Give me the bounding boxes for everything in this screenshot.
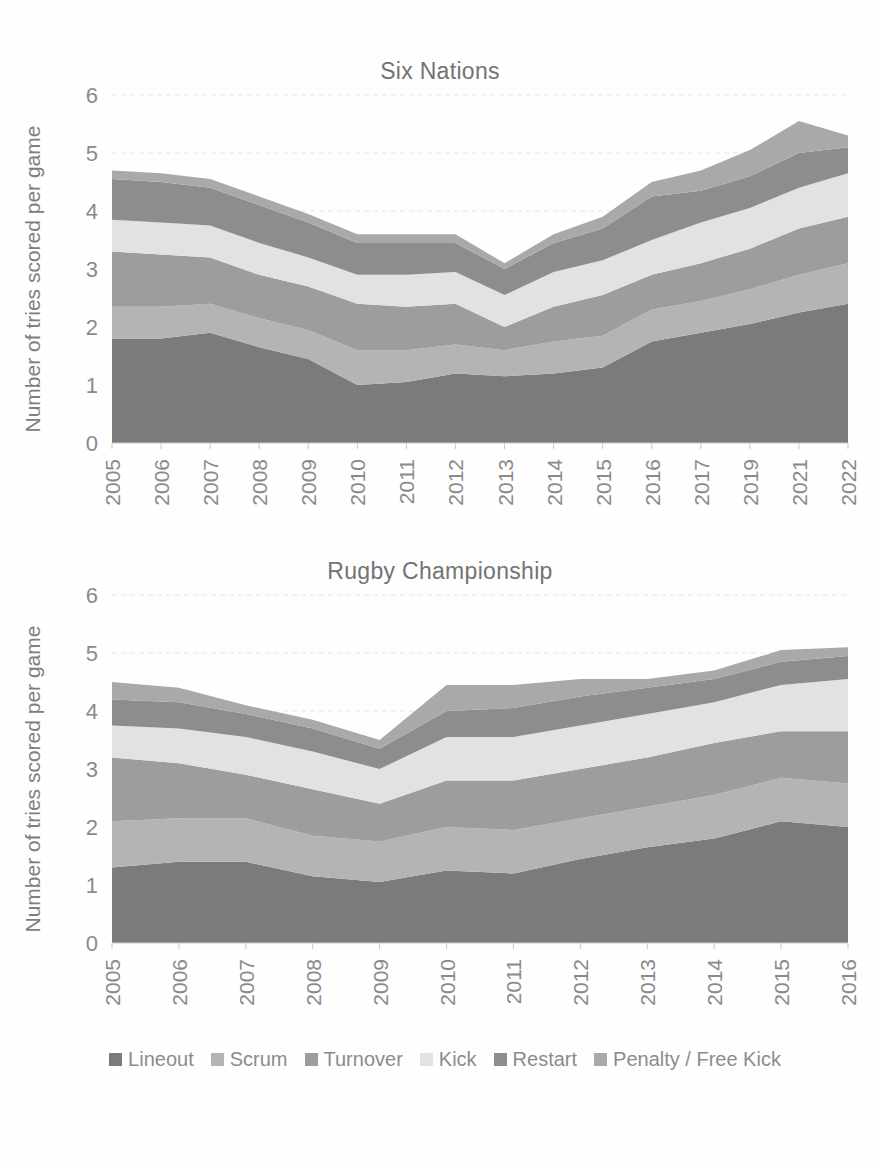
legend-swatch-icon xyxy=(494,1053,507,1066)
y-tick-label: 1 xyxy=(86,873,98,898)
legend-swatch-icon xyxy=(211,1053,224,1066)
y-tick-label: 3 xyxy=(86,757,98,782)
x-tick-label: 2009 xyxy=(297,459,320,506)
y-tick-label: 4 xyxy=(86,699,98,724)
y-tick-label: 6 xyxy=(86,85,98,108)
x-tick-label: 2011 xyxy=(395,459,418,504)
x-tick-label: 2015 xyxy=(770,959,793,1006)
y-tick-label: 0 xyxy=(86,931,98,956)
x-tick-label: 2013 xyxy=(494,459,517,506)
x-tick-label: 2012 xyxy=(444,459,467,506)
y-axis-label: Number of tries scored per game xyxy=(21,126,44,433)
legend-item[interactable]: Lineout xyxy=(109,1048,194,1071)
legend-item-label: Kick xyxy=(439,1048,477,1071)
x-tick-label: 2005 xyxy=(101,959,124,1006)
chart-page: Six Nations 0123456Number of tries score… xyxy=(0,0,880,1168)
legend-item[interactable]: Penalty / Free Kick xyxy=(594,1048,781,1071)
x-tick-label: 2008 xyxy=(248,459,271,506)
x-tick-label: 2021 xyxy=(788,459,811,506)
stacked-area-svg-2: 0123456Number of tries scored per game20… xyxy=(0,585,880,1040)
x-tick-label: 2006 xyxy=(150,459,173,506)
x-tick-label: 2008 xyxy=(302,959,325,1006)
x-tick-label: 2012 xyxy=(569,959,592,1006)
y-tick-label: 3 xyxy=(86,257,98,282)
x-tick-label: 2011 xyxy=(502,959,525,1004)
legend-item-label: Restart xyxy=(513,1048,577,1071)
x-tick-label: 2013 xyxy=(636,959,659,1006)
chart-title-six-nations: Six Nations xyxy=(0,0,880,85)
y-tick-label: 6 xyxy=(86,585,98,608)
chart-canvas-six-nations: 0123456Number of tries scored per game20… xyxy=(0,85,880,540)
x-tick-label: 2006 xyxy=(168,959,191,1006)
x-tick-label: 2005 xyxy=(101,459,124,506)
legend-item-label: Penalty / Free Kick xyxy=(613,1048,781,1071)
x-tick-label: 2007 xyxy=(199,459,222,506)
x-tick-label: 2009 xyxy=(369,959,392,1006)
legend-item-label: Turnover xyxy=(324,1048,403,1071)
y-tick-label: 5 xyxy=(86,641,98,666)
legend-swatch-icon xyxy=(594,1053,607,1066)
legend-item[interactable]: Turnover xyxy=(305,1048,403,1071)
y-tick-label: 2 xyxy=(86,815,98,840)
legend-swatch-icon xyxy=(109,1053,122,1066)
x-tick-label: 2016 xyxy=(837,959,860,1006)
chart-title-rugby-championship: Rugby Championship xyxy=(0,540,880,585)
legend-swatch-icon xyxy=(305,1053,318,1066)
chart-rugby-championship: Rugby Championship 0123456Number of trie… xyxy=(0,540,880,1040)
chart-legend: LineoutScrumTurnoverKickRestartPenalty /… xyxy=(0,1048,880,1071)
stacked-area-svg-1: 0123456Number of tries scored per game20… xyxy=(0,85,880,540)
x-tick-label: 2022 xyxy=(837,459,860,506)
x-tick-label: 2017 xyxy=(690,459,713,506)
x-tick-label: 2019 xyxy=(739,459,762,506)
y-tick-label: 0 xyxy=(86,431,98,456)
chart-canvas-rugby-championship: 0123456Number of tries scored per game20… xyxy=(0,585,880,1040)
chart-six-nations: Six Nations 0123456Number of tries score… xyxy=(0,0,880,540)
x-tick-label: 2014 xyxy=(703,959,726,1006)
legend-swatch-icon xyxy=(420,1053,433,1066)
x-tick-label: 2010 xyxy=(346,459,369,506)
legend-item[interactable]: Kick xyxy=(420,1048,477,1071)
legend-item[interactable]: Restart xyxy=(494,1048,577,1071)
legend-item-label: Lineout xyxy=(128,1048,194,1071)
y-tick-label: 4 xyxy=(86,199,98,224)
y-tick-label: 1 xyxy=(86,373,98,398)
x-tick-label: 2015 xyxy=(592,459,615,506)
x-tick-label: 2010 xyxy=(436,959,459,1006)
x-tick-label: 2014 xyxy=(543,459,566,506)
legend-item-label: Scrum xyxy=(230,1048,288,1071)
x-tick-label: 2016 xyxy=(641,459,664,506)
x-tick-label: 2007 xyxy=(235,959,258,1006)
y-axis-label: Number of tries scored per game xyxy=(21,626,44,933)
y-tick-label: 5 xyxy=(86,141,98,166)
y-tick-label: 2 xyxy=(86,315,98,340)
legend-item[interactable]: Scrum xyxy=(211,1048,288,1071)
